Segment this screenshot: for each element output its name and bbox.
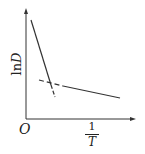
y-axis-label-variable: D [9, 53, 24, 63]
x-axis [26, 117, 136, 121]
x-axis-label-numerator: 1 [85, 121, 99, 133]
steep-segment-dashed-extension [51, 85, 55, 97]
y-axis-label-prefix: ln [9, 63, 24, 76]
y-axis-label: lnD [9, 49, 25, 79]
x-axis-label: 1 T [85, 121, 99, 148]
x-axis-arrow-icon [130, 117, 136, 121]
shallow-segment [63, 86, 120, 98]
origin-label: O [19, 121, 30, 137]
steep-segment [31, 20, 51, 85]
y-axis-arrow-icon [24, 8, 28, 14]
x-axis-label-denominator: T [85, 136, 99, 148]
